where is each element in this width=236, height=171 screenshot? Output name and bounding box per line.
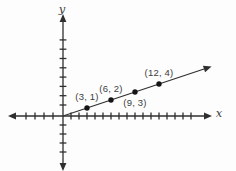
point-label: (9, 3) <box>123 97 146 108</box>
y-axis-bottom-arrow-icon <box>60 163 67 171</box>
x-axis-right-arrow-icon <box>204 113 212 120</box>
data-point <box>132 89 137 94</box>
data-point <box>84 105 89 110</box>
coordinate-plane: (3, 1)(6, 2)(9, 3)(12, 4)xy <box>0 0 236 171</box>
graphed-line-arrow-icon <box>203 63 213 72</box>
point-label: (3, 1) <box>75 91 98 102</box>
figure: (3, 1)(6, 2)(9, 3)(12, 4)xy <box>0 0 236 171</box>
x-axis-left-arrow-icon <box>8 113 16 120</box>
y-axis-label: y <box>58 2 66 16</box>
point-label: (6, 2) <box>99 83 122 94</box>
x-axis-label: x <box>216 106 223 120</box>
data-point <box>156 81 161 86</box>
data-point <box>108 97 113 102</box>
point-label: (12, 4) <box>145 67 174 78</box>
